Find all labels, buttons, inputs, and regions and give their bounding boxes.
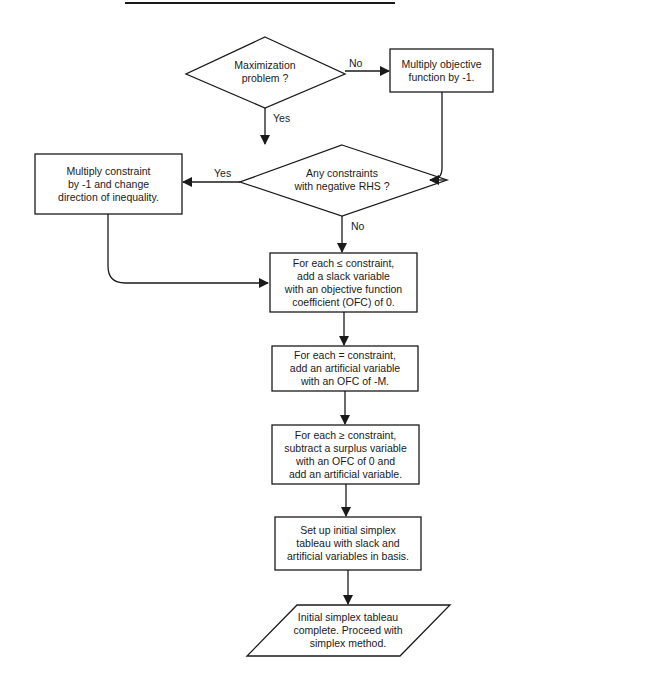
process-artificial-eq: For each = constraint, add an artificial…: [272, 346, 418, 391]
node-line: with an objective function: [285, 283, 402, 296]
edge-label-max-no: No: [349, 57, 362, 69]
node-line: Multiply objective: [402, 58, 482, 71]
node-line: with an OFC of -M.: [301, 375, 389, 388]
node-line: Multiply constraint: [66, 165, 150, 178]
node-line: Set up initial simplex: [300, 524, 396, 537]
node-line: function by -1.: [409, 71, 475, 84]
process-multiply-objective: Multiply objective function by -1.: [390, 49, 493, 92]
node-line: coefficient (OFC) of 0.: [292, 296, 395, 309]
node-line: tableau with slack and: [296, 537, 399, 550]
flowchart-canvas: [0, 0, 671, 687]
node-line: add an artificial variable: [290, 362, 400, 375]
node-line: artificial variables in basis.: [287, 550, 409, 563]
node-line: with negative RHS ?: [294, 180, 389, 193]
edge-label-rhs-yes: Yes: [214, 167, 231, 179]
process-multiply-constraint: Multiply constraint by -1 and change dir…: [35, 154, 182, 214]
node-line: Initial simplex tableau: [298, 611, 398, 624]
process-slack: For each ≤ constraint, add a slack varia…: [270, 253, 417, 312]
process-setup-tableau: Set up initial simplex tableau with slac…: [275, 517, 421, 570]
process-surplus: For each ≥ constraint, subtract a surplu…: [272, 425, 419, 484]
node-line: simplex method.: [310, 637, 386, 650]
node-line: direction of inequality.: [58, 191, 159, 204]
edge-label-rhs-no: No: [351, 220, 364, 232]
node-line: Any constraints: [306, 167, 378, 180]
node-line: add a slack variable: [297, 270, 390, 283]
node-line: subtract a surplus variable: [284, 442, 407, 455]
node-line: by -1 and change: [68, 178, 149, 191]
node-line: add an artificial variable.: [289, 468, 402, 481]
node-line: with an OFC of 0 and: [296, 455, 395, 468]
edge-label-max-yes: Yes: [273, 112, 290, 124]
node-line: complete. Proceed with: [293, 624, 402, 637]
node-line: Maximization: [234, 59, 295, 72]
node-line: problem ?: [242, 72, 289, 85]
terminal-complete: Initial simplex tableau complete. Procee…: [268, 605, 428, 656]
node-line: For each ≤ constraint,: [293, 257, 394, 270]
node-line: For each = constraint,: [294, 349, 396, 362]
decision-maximization: Maximization problem ?: [205, 52, 325, 92]
node-line: For each ≥ constraint,: [295, 429, 396, 442]
decision-negative-rhs: Any constraints with negative RHS ?: [282, 160, 402, 200]
